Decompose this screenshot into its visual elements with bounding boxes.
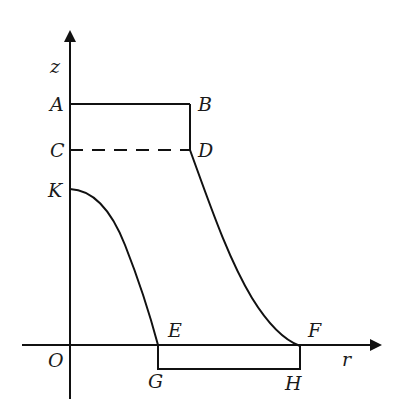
diagram-canvas: z A B C D K E F O G H r [0, 0, 412, 420]
z-axis-label: z [49, 55, 61, 77]
point-label-e: E [167, 319, 182, 341]
point-label-a: A [48, 93, 64, 115]
curve-ke [70, 189, 158, 345]
curve-df [190, 150, 300, 346]
r-axis-label: r [342, 348, 353, 370]
point-label-c: C [50, 139, 65, 161]
point-label-h: H [284, 372, 302, 394]
point-label-b: B [197, 93, 212, 115]
point-label-f: F [307, 319, 322, 341]
point-label-d: D [197, 139, 213, 161]
rectangle-eghf [158, 345, 300, 369]
point-label-g: G [148, 370, 163, 392]
origin-label: O [48, 349, 64, 371]
point-label-k: K [47, 179, 64, 201]
